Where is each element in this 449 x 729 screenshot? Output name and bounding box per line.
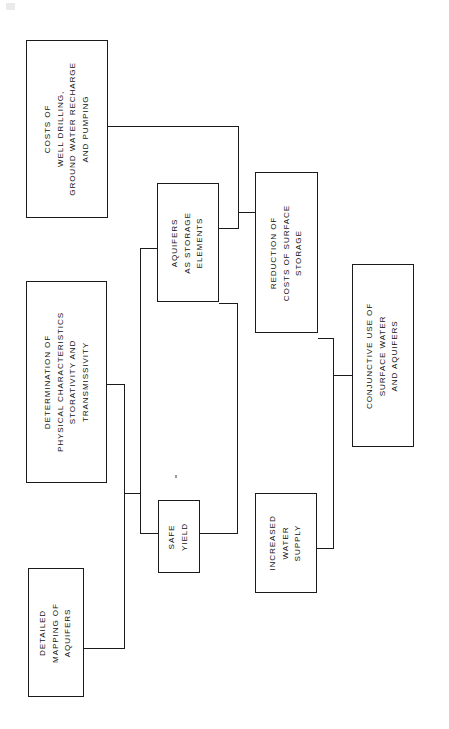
- node-label-line: AND AQUIFERS: [389, 302, 402, 408]
- connector-reduction-right-stub: [318, 338, 334, 339]
- node-label-line: CONJUNCTIVE USE OF: [364, 302, 377, 408]
- connector-trunk-c-mid-tick: [124, 493, 141, 494]
- node-label-line: SURFACE WATER: [377, 302, 390, 408]
- connector-trunk-e-vertical: [333, 338, 334, 549]
- flow-diagram-canvas: COSTS OFWELL DRILLING,GROUND WATER RECHA…: [0, 0, 449, 729]
- node-label-line: STORATIVITY AND: [67, 312, 80, 452]
- node-label-line: ELEMENTS: [194, 212, 207, 273]
- node-costs-well-drilling[interactable]: COSTS OFWELL DRILLING,GROUND WATER RECHA…: [26, 40, 108, 218]
- node-determination-physical-characteristics[interactable]: DETERMINATION OFPHYSICAL CHARACTERISTICS…: [26, 281, 107, 483]
- node-label-line: AND PUMPING: [80, 62, 93, 196]
- node-label-costs-well-drilling: COSTS OFWELL DRILLING,GROUND WATER RECHA…: [42, 62, 92, 196]
- node-detailed-mapping-of-aquifers[interactable]: DETAILEDMAPPING OFAQUIFERS: [28, 568, 84, 697]
- connector-trunk-c-to-mapping: [84, 648, 125, 649]
- connector-trunk-b-to-safe-yield: [140, 533, 159, 534]
- node-label-line: YIELD: [179, 523, 192, 551]
- node-label-safe-yield: SAFEYIELD: [166, 523, 191, 551]
- node-label-aquifers-as-storage-elements: AQUIFERSAS STORAGEELEMENTS: [169, 212, 207, 273]
- node-label-line: DETAILED: [37, 603, 50, 663]
- node-label-line: WATER: [280, 515, 293, 570]
- node-label-line: INCREASED: [267, 515, 280, 570]
- node-label-detailed-mapping-of-aquifers: DETAILEDMAPPING OFAQUIFERS: [37, 603, 75, 663]
- node-label-line: AS STORAGE: [182, 212, 195, 273]
- node-label-line: TRANSMISSIVITY: [79, 312, 92, 452]
- connector-trunk-a-to-reduction: [238, 212, 256, 213]
- connector-trunk-b-vertical: [140, 248, 141, 533]
- node-label-line: DETERMINATION OF: [41, 312, 54, 452]
- connector-trunk-a-to-aquifers: [219, 228, 239, 229]
- scan-artifact-speck: [6, 3, 15, 10]
- connector-costs-to-trunk-a: [108, 126, 239, 127]
- node-reduction-of-costs-of-surface-storage[interactable]: REDUCTION OFCOSTS OF SURFACESTORAGE: [255, 172, 318, 333]
- node-label-line: WELL DRILLING,: [54, 62, 67, 196]
- node-label-line: SUPPLY: [292, 515, 305, 570]
- node-safe-yield[interactable]: SAFEYIELD: [158, 500, 200, 573]
- node-label-increased-water-supply: INCREASEDWATERSUPPLY: [267, 515, 305, 570]
- node-conjunctive-use-of-surface-water-and-aquifers[interactable]: CONJUNCTIVE USE OFSURFACE WATERAND AQUIF…: [352, 264, 414, 447]
- node-label-line: MAPPING OF: [50, 603, 63, 663]
- node-label-line: PHYSICAL CHARACTERISTICS: [54, 312, 67, 452]
- connector-trunk-e-to-conjunctive: [333, 375, 353, 376]
- node-label-determination-physical-characteristics: DETERMINATION OFPHYSICAL CHARACTERISTICS…: [41, 312, 91, 452]
- scan-artifact-stray-dot-center: [175, 475, 177, 478]
- connector-aquifers-right-stub: [219, 303, 238, 304]
- node-label-line: COSTS OF: [42, 62, 55, 196]
- node-label-line: AQUIFERS: [169, 212, 182, 273]
- node-aquifers-as-storage-elements[interactable]: AQUIFERSAS STORAGEELEMENTS: [157, 183, 219, 302]
- node-label-line: GROUND WATER RECHARGE: [67, 62, 80, 196]
- connector-trunk-a-vertical: [238, 126, 239, 229]
- node-label-line: STORAGE: [293, 204, 306, 300]
- node-label-line: SAFE: [166, 523, 179, 551]
- node-label-conjunctive-use-of-surface-water-and-aquifers: CONJUNCTIVE USE OFSURFACE WATERAND AQUIF…: [364, 302, 402, 408]
- connector-trunk-d-vertical: [237, 303, 238, 534]
- connector-determination-stub: [107, 384, 125, 385]
- node-increased-water-supply[interactable]: INCREASEDWATERSUPPLY: [255, 493, 317, 593]
- node-label-line: AQUIFERS: [62, 603, 75, 663]
- connector-aquifers-left-stub: [140, 248, 158, 249]
- node-label-line: COSTS OF SURFACE: [280, 204, 293, 300]
- connector-trunk-d-to-safe-yield: [200, 533, 238, 534]
- connector-trunk-c-vertical: [124, 384, 125, 649]
- node-label-reduction-of-costs-of-surface-storage: REDUCTION OFCOSTS OF SURFACESTORAGE: [268, 204, 306, 300]
- connector-trunk-e-to-increased: [317, 548, 334, 549]
- node-label-line: REDUCTION OF: [268, 204, 281, 300]
